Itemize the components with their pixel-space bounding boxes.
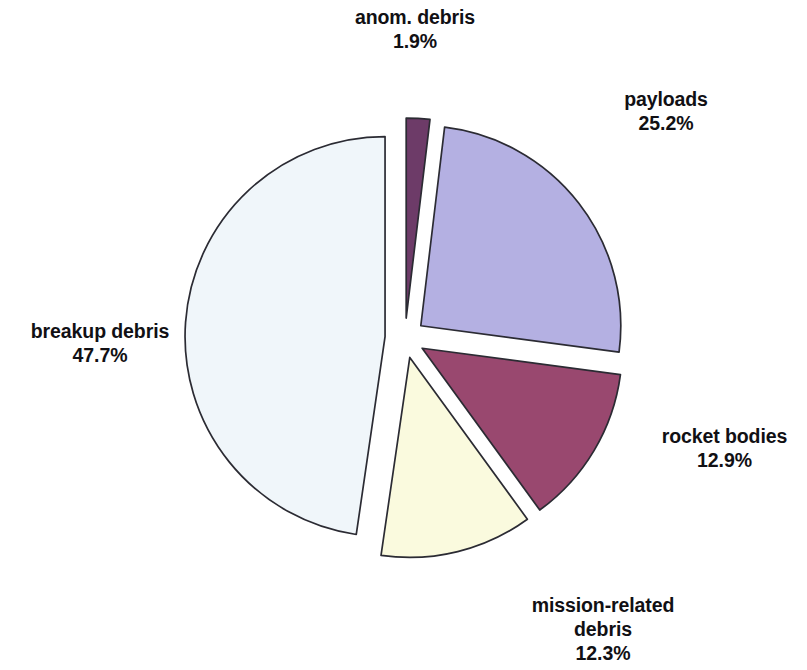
slice-label-mission-related-debris: mission-related debris 12.3% [467,594,739,665]
slice-label-percent: 47.7% [2,344,198,368]
slice-label-name: anom. debris [318,6,512,30]
slice-label-name: payloads [573,88,759,112]
pie-chart-figure: anom. debris 1.9% payloads 25.2% rocket … [0,0,807,670]
slice-label-name: rocket bodies [642,425,807,449]
slice-label-percent: 25.2% [573,112,759,136]
slice-label-payloads: payloads 25.2% [573,88,759,136]
slice-label-name: breakup debris [2,320,198,344]
slice-label-name-line2: debris [467,618,739,642]
pie-slice-payloads [421,127,621,352]
slice-label-breakup-debris: breakup debris 47.7% [2,320,198,368]
slice-label-anom-debris: anom. debris 1.9% [318,6,512,54]
slice-label-percent: 12.9% [642,449,807,473]
slice-label-rocket-bodies: rocket bodies 12.9% [642,425,807,473]
slice-label-percent: 12.3% [467,642,739,666]
pie-slice-breakup-debris [185,137,385,535]
slice-label-name-line1: mission-related [467,594,739,618]
slice-label-percent: 1.9% [318,30,512,54]
pie-slice-group [185,118,621,557]
